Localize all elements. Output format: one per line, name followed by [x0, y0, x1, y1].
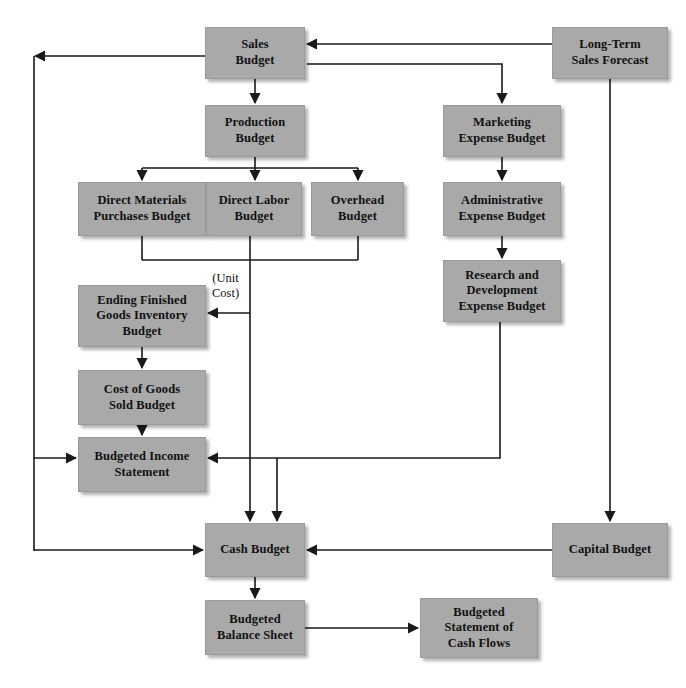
node-administrative-expense-budget[interactable]: AdministrativeExpense Budget — [443, 182, 561, 236]
node-label: BudgetedBalance Sheet — [210, 612, 300, 643]
node-label: Direct LaborBudget — [211, 193, 297, 224]
node-direct-materials-purchases-budget[interactable]: Direct MaterialsPurchases Budget — [78, 182, 206, 236]
edge-label-unit-cost: (UnitCost) — [212, 271, 239, 301]
node-marketing-expense-budget[interactable]: MarketingExpense Budget — [443, 105, 561, 157]
node-label: MarketingExpense Budget — [448, 115, 556, 146]
node-long-term-sales-forecast[interactable]: Long-TermSales Forecast — [552, 27, 668, 79]
node-label: Cash Budget — [210, 542, 300, 558]
node-overhead-budget[interactable]: OverheadBudget — [311, 182, 404, 236]
node-budgeted-statement-of-cash-flows[interactable]: BudgetedStatement ofCash Flows — [420, 598, 538, 658]
flowchart-canvas: SalesBudget Long-TermSales Forecast Prod… — [0, 0, 686, 688]
node-budgeted-balance-sheet[interactable]: BudgetedBalance Sheet — [205, 600, 305, 655]
node-label: Long-TermSales Forecast — [557, 37, 663, 68]
edge-rd-to-income-statement — [208, 322, 500, 458]
node-cash-budget[interactable]: Cash Budget — [205, 523, 305, 577]
node-label: Research andDevelopmentExpense Budget — [448, 268, 556, 315]
node-label: Cost of GoodsSold Budget — [83, 382, 201, 413]
node-budgeted-income-statement[interactable]: Budgeted IncomeStatement — [78, 437, 206, 492]
node-sales-budget[interactable]: SalesBudget — [205, 27, 305, 79]
node-label: Capital Budget — [557, 542, 663, 558]
node-cost-of-goods-sold-budget[interactable]: Cost of GoodsSold Budget — [78, 370, 206, 425]
node-capital-budget[interactable]: Capital Budget — [552, 523, 668, 577]
node-label: BudgetedStatement ofCash Flows — [425, 605, 533, 652]
node-research-and-development-expense-budget[interactable]: Research andDevelopmentExpense Budget — [443, 260, 561, 322]
edge-sales-to-marketing — [307, 64, 502, 103]
node-label: ProductionBudget — [210, 115, 300, 146]
node-label: SalesBudget — [210, 37, 300, 68]
node-production-budget[interactable]: ProductionBudget — [205, 105, 305, 157]
node-label: AdministrativeExpense Budget — [448, 193, 556, 224]
node-direct-labor-budget[interactable]: Direct LaborBudget — [206, 182, 302, 236]
node-label: Ending FinishedGoods InventoryBudget — [83, 293, 201, 340]
node-ending-finished-goods-inventory-budget[interactable]: Ending FinishedGoods InventoryBudget — [78, 285, 206, 347]
node-label: Budgeted IncomeStatement — [83, 449, 201, 480]
node-label: OverheadBudget — [316, 193, 399, 224]
node-label: Direct MaterialsPurchases Budget — [83, 193, 201, 224]
